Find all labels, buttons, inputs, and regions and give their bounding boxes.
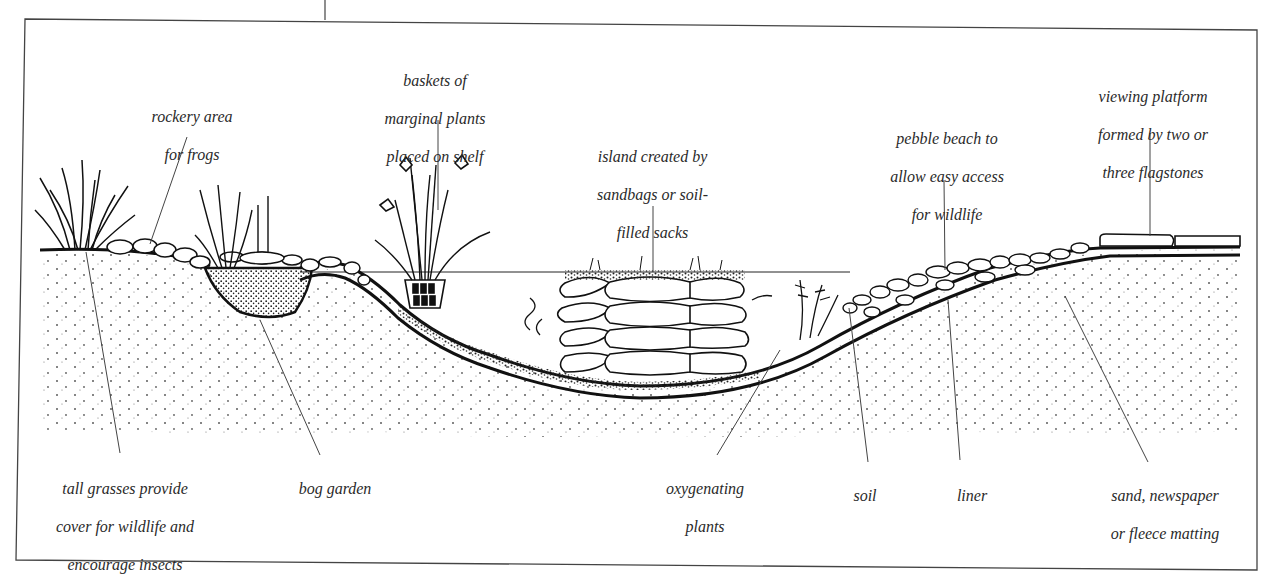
label-island-sandbags: island created by sandbags or soil- fill… <box>570 128 735 261</box>
label-rockery-area: rockery area for frogs <box>132 88 252 183</box>
label-viewing-platform: viewing platform formed by two or three … <box>1078 68 1228 201</box>
label-marginal-plant-baskets: baskets of marginal plants placed on she… <box>365 52 505 185</box>
label-pebble-beach: pebble beach to allow easy access for wi… <box>872 110 1022 243</box>
island-sandbags <box>558 256 749 375</box>
label-underlay-matting: sand, newspaper or fleece matting <box>1090 467 1240 562</box>
label-bog-garden: bog garden <box>280 460 390 517</box>
label-oxygenating-plants: oxygenating plants <box>650 460 760 555</box>
label-liner: liner <box>942 467 1002 524</box>
flagstone-platform <box>1100 234 1240 246</box>
tall-grasses-plant <box>35 160 135 250</box>
bog-plants <box>195 185 284 268</box>
label-tall-grasses: tall grasses provide cover for wildlife … <box>30 460 220 581</box>
label-soil: soil <box>840 467 890 524</box>
pond-diagram: rockery area for frogs baskets of margin… <box>0 0 1281 581</box>
